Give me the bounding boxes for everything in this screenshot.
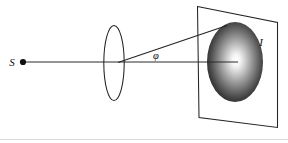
angle-label-phi: φ [153, 50, 159, 61]
image-label-I: I [258, 36, 264, 48]
point-source-dot [20, 59, 26, 65]
converging-lens [104, 26, 124, 101]
source-label-S: S [9, 56, 15, 68]
diagram-canvas: S φ I [0, 0, 288, 143]
optics-diagram-figure: S φ I [0, 0, 288, 143]
